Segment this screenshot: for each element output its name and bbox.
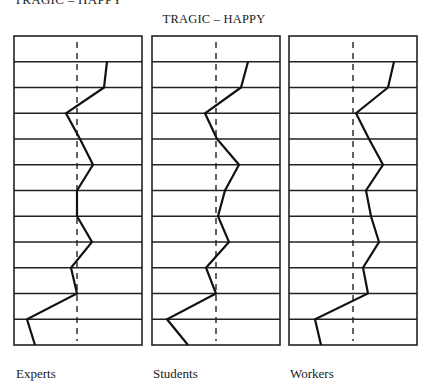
panel-experts — [14, 36, 142, 345]
profile-chart — [0, 0, 428, 388]
panel-workers — [289, 36, 417, 345]
profile-line-students — [167, 62, 248, 345]
panel-students — [152, 36, 280, 345]
profile-line-workers — [315, 62, 394, 345]
panel-label-students: Students — [153, 366, 198, 382]
panel-label-workers: Workers — [290, 366, 334, 382]
profile-line-experts — [27, 62, 107, 345]
panel-label-experts: Experts — [16, 366, 56, 382]
